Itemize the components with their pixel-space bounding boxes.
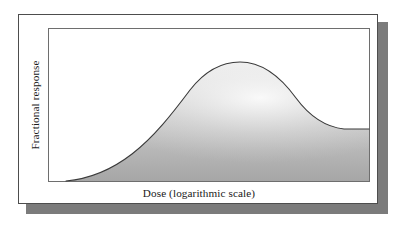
y-axis-label: Fractional response [29,60,41,149]
figure-container: Fractional response [0,0,406,230]
figure-card: Fractional response [18,14,378,204]
y-axis-label-container: Fractional response [25,28,45,182]
x-axis-label: Dose (logarithmic scale) [19,187,379,199]
plot-area [48,28,370,182]
dose-response-curve-svg [48,28,370,182]
